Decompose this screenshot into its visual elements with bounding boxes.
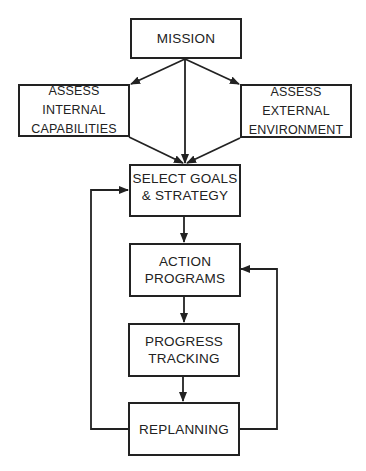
arrow-external-to-select: [187, 138, 240, 163]
node-action-programs: ACTION PROGRAMS: [129, 243, 241, 297]
node-progress-tracking: PROGRESS TRACKING: [128, 323, 240, 377]
arrow-internal-to-select: [129, 137, 183, 163]
node-label: REPLANNING: [139, 421, 229, 438]
node-label: ACTION: [159, 253, 211, 270]
node-label: SELECT GOALS: [133, 170, 238, 187]
node-label: PROGRAMS: [145, 270, 225, 287]
node-label: CAPABILITIES: [31, 120, 117, 139]
node-select-goals: SELECT GOALS & STRATEGY: [129, 164, 241, 217]
node-assess-external: ASSESS EXTERNAL ENVIRONMENT: [240, 84, 352, 138]
node-assess-internal: ASSESS INTERNAL CAPABILITIES: [18, 84, 130, 137]
connector-layer: [0, 0, 366, 471]
loop-replanning-to-select: [91, 190, 128, 429]
node-label: INTERNAL: [42, 101, 105, 120]
loop-replanning-to-action: [239, 269, 277, 429]
node-label: ASSESS: [270, 83, 321, 102]
node-label: MISSION: [157, 30, 215, 47]
node-label: TRACKING: [148, 350, 219, 367]
node-label: ENVIRONMENT: [249, 121, 344, 140]
arrow-mission-to-external: [185, 59, 239, 84]
node-label: & STRATEGY: [142, 187, 229, 204]
node-label: ASSESS: [48, 82, 99, 101]
node-replanning: REPLANNING: [128, 402, 240, 456]
arrow-mission-to-internal: [131, 59, 185, 84]
node-label: EXTERNAL: [262, 102, 330, 121]
node-label: PROGRESS: [145, 333, 223, 350]
node-mission: MISSION: [130, 18, 242, 59]
